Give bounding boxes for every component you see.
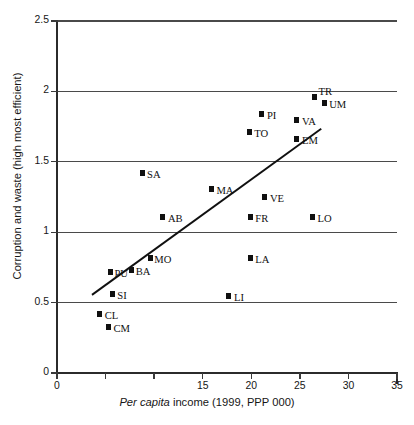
data-point-marker <box>262 194 267 200</box>
x-tick <box>251 373 252 379</box>
data-point-label: BA <box>136 266 151 277</box>
data-point-marker <box>106 324 111 330</box>
x-tick-label: 25 <box>280 380 320 391</box>
x-tick <box>396 373 397 379</box>
y-tick-label: 1.5 <box>5 155 49 166</box>
data-point-label: TO <box>254 128 268 139</box>
x-axis-title-rest: income (1999, PPP 000) <box>170 396 295 408</box>
data-point-marker <box>248 214 253 220</box>
x-tick <box>56 373 57 379</box>
x-axis-title-italic: Per capita <box>119 396 169 408</box>
data-point-marker <box>310 214 315 220</box>
y-tick-label: 2 <box>5 84 49 95</box>
data-point-label: FR <box>255 213 268 224</box>
data-point-marker <box>226 293 231 299</box>
y-tick <box>51 161 58 162</box>
data-point-label: PI <box>267 110 276 121</box>
data-point-marker <box>312 94 317 100</box>
data-point-marker <box>294 117 299 123</box>
data-point-marker <box>110 291 115 297</box>
gridline <box>57 161 397 162</box>
data-point-label: TR <box>318 86 332 97</box>
y-tick-label: 0.5 <box>5 296 49 307</box>
data-point-marker <box>129 267 134 273</box>
y-tick-label: 2.5 <box>5 14 49 25</box>
data-point-label: UM <box>329 99 346 110</box>
data-point-marker <box>160 214 165 220</box>
data-point-marker <box>140 170 145 176</box>
data-point-label: LO <box>317 213 331 224</box>
x-tick <box>105 373 106 379</box>
data-point-label: SA <box>147 169 161 180</box>
y-axis-tick-labels: 00.511.522.5 <box>0 0 49 425</box>
x-axis-title: Per capita income (1999, PPP 000) <box>0 396 414 408</box>
data-point-label: CM <box>113 323 130 334</box>
x-tick <box>153 373 154 379</box>
gridline <box>57 232 397 233</box>
x-axis-line <box>56 372 398 374</box>
data-point-label: VE <box>270 193 284 204</box>
y-tick <box>51 20 58 21</box>
chart-canvas: Corruption and waste (high most efficien… <box>0 0 414 425</box>
data-point-marker <box>97 311 102 317</box>
y-tick-label: 1 <box>5 225 49 236</box>
data-point-label: PU <box>114 268 128 279</box>
x-tick <box>299 373 300 379</box>
x-tick <box>348 373 349 379</box>
x-tick <box>202 373 203 379</box>
data-point-marker <box>259 111 264 117</box>
x-tick-label: 20 <box>231 380 271 391</box>
data-point-label: EM <box>302 135 318 146</box>
data-point-label: MA <box>216 185 233 196</box>
y-tick-label: 0 <box>5 366 49 377</box>
data-point-marker <box>209 186 214 192</box>
data-point-marker <box>322 100 327 106</box>
y-tick <box>51 302 58 303</box>
data-point-label: CL <box>105 310 119 321</box>
data-point-marker <box>148 255 153 261</box>
x-tick-label: 15 <box>183 380 223 391</box>
data-point-marker <box>294 136 299 142</box>
x-tick-label: 0 <box>37 380 77 391</box>
x-tick-label: 35 <box>377 380 414 391</box>
gridline <box>57 91 397 92</box>
data-point-label: MO <box>154 254 171 265</box>
gridline <box>57 302 397 303</box>
data-point-label: SI <box>117 290 126 301</box>
data-point-marker <box>108 269 113 275</box>
data-point-label: LA <box>255 254 269 265</box>
data-point-label: AB <box>168 213 183 224</box>
data-point-marker <box>248 255 253 261</box>
gridline <box>57 20 397 21</box>
data-point-label: VA <box>302 116 316 127</box>
y-tick <box>51 232 58 233</box>
data-point-label: LI <box>234 292 244 303</box>
x-tick-label: 30 <box>328 380 368 391</box>
y-tick <box>51 91 58 92</box>
y-axis-line <box>56 20 58 374</box>
data-point-marker <box>247 129 252 135</box>
trend-line <box>0 0 414 425</box>
